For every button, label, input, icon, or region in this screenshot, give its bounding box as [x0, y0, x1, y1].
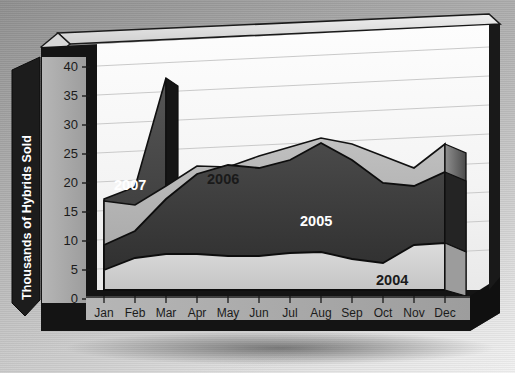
frame-right-edge: [489, 24, 500, 290]
x-tick-label: Jan: [94, 306, 113, 320]
x-tick-label: Apr: [188, 306, 207, 320]
x-tick-label: Sep: [341, 306, 363, 320]
frame-bottom-bevel: [41, 320, 470, 331]
y-tick-label: 20: [64, 175, 78, 190]
y-tick-label: 25: [64, 146, 78, 161]
hybrid-sales-area-chart: Thousands of Hybrids Sold 40 35 30 25 20…: [0, 0, 515, 373]
x-tick-label: Jul: [282, 306, 297, 320]
chart-drop-shadow: [65, 331, 495, 365]
dec-sidewall-2005: [445, 172, 466, 252]
chart-figure: Thousands of Hybrids Sold 40 35 30 25 20…: [0, 0, 515, 373]
x-tick-label: Feb: [125, 306, 146, 320]
x-tick-label: Jun: [249, 306, 268, 320]
x-tick-label: Oct: [374, 306, 393, 320]
y-tick-label: 35: [64, 88, 78, 103]
x-tick-label: Mar: [156, 306, 177, 320]
series-annotation-2006: 2006: [207, 171, 239, 187]
x-tick-label: Dec: [434, 306, 455, 320]
x-tick-label: May: [217, 306, 240, 320]
y-axis-title: Thousands of Hybrids Sold: [20, 135, 34, 300]
y-tick-label: 15: [64, 204, 78, 219]
series-annotation-2004: 2004: [376, 272, 408, 288]
x-tick-label: Nov: [403, 306, 424, 320]
series-annotation-2005: 2005: [300, 213, 332, 229]
y-tick-label: 40: [64, 59, 78, 74]
dec-sidewall-2004: [445, 243, 466, 296]
y-tick-label: 0: [71, 291, 78, 306]
y-tick-label: 30: [64, 117, 78, 132]
y-tick-label: 10: [64, 233, 78, 248]
x-tick-label: Aug: [310, 306, 331, 320]
y-tick-label: 5: [71, 262, 78, 277]
series-annotation-2007: 2007: [114, 177, 146, 193]
